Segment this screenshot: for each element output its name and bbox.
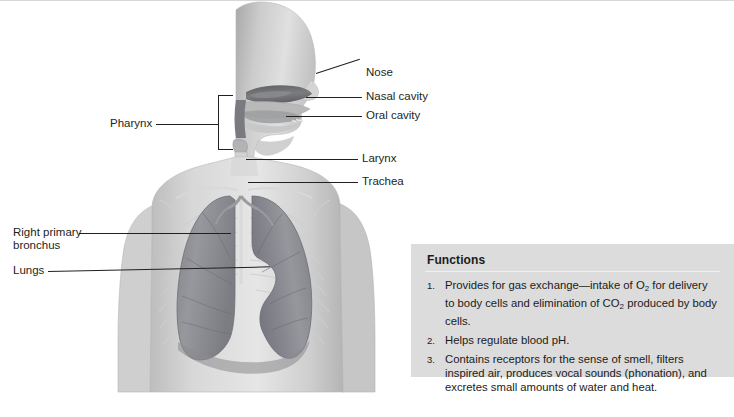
functions-list-item: 3.Contains receptors for the sense of sm… <box>425 352 720 394</box>
leader-larynx <box>246 159 358 160</box>
functions-title: Functions <box>427 253 720 267</box>
functions-list: 1.Provides for gas exchange—intake of O2… <box>425 278 720 394</box>
functions-list-item-number: 1. <box>427 279 435 293</box>
leader-right-primary-bronchus <box>79 233 231 234</box>
torso-group <box>118 157 375 392</box>
leader-oral-cavity <box>286 116 362 117</box>
torso-shape <box>150 157 344 392</box>
functions-list-item: 2.Helps regulate blood pH. <box>425 333 720 347</box>
leader-pharynx <box>156 124 218 125</box>
functions-title-divider <box>425 271 720 272</box>
diagram-page: Nose Nasal cavity Oral cavity Larynx Tra… <box>0 0 734 417</box>
label-pharynx: Pharynx <box>110 117 152 130</box>
larynx-shape <box>233 140 247 153</box>
label-lungs: Lungs <box>13 264 44 277</box>
label-nose: Nose <box>366 66 393 79</box>
functions-list-item-text: Provides for gas exchange—intake of O2 f… <box>445 279 717 327</box>
leader-nasal-cavity <box>306 97 362 98</box>
pharynx-shape <box>235 100 247 138</box>
label-trachea: Trachea <box>362 175 404 188</box>
leader-trachea <box>248 182 358 183</box>
functions-list-item: 1.Provides for gas exchange—intake of O2… <box>425 278 720 328</box>
right-arm-shape <box>340 204 375 392</box>
pharynx-bracket <box>218 95 233 150</box>
label-larynx: Larynx <box>362 152 397 165</box>
functions-list-item-number: 3. <box>427 353 435 367</box>
functions-list-item-text: Helps regulate blood pH. <box>445 334 569 346</box>
label-right-primary-bronchus-line2: bronchus <box>13 239 81 252</box>
subscript: 2 <box>620 302 624 311</box>
label-right-primary-bronchus-line1: Right primary <box>13 226 81 239</box>
label-oral-cavity: Oral cavity <box>366 109 420 122</box>
label-nasal-cavity: Nasal cavity <box>366 90 428 103</box>
functions-list-item-number: 2. <box>427 334 435 348</box>
functions-panel: Functions 1.Provides for gas exchange—in… <box>411 244 734 377</box>
subscript: 2 <box>645 284 649 293</box>
label-right-primary-bronchus: Right primary bronchus <box>13 226 81 252</box>
functions-list-item-text: Contains receptors for the sense of smel… <box>445 353 707 393</box>
